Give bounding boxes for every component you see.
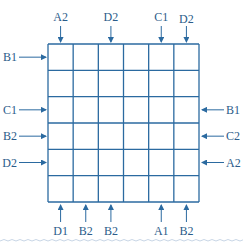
bottom-label: A1	[154, 224, 169, 238]
bottom-label: D1	[53, 224, 68, 238]
right-label: A2	[226, 156, 241, 170]
bottom-label: B2	[79, 224, 93, 238]
top-label: A2	[53, 10, 68, 24]
left-label: D2	[2, 156, 17, 170]
bottom-label: B2	[104, 224, 118, 238]
right-label: B1	[226, 103, 240, 117]
left-label: B1	[3, 50, 17, 64]
grid-canvas: A2D2C1D2D1B2B2A1B2B1C1B2D2B1C2A2	[0, 0, 243, 244]
bottom-label: B2	[179, 224, 193, 238]
left-label: B2	[3, 129, 17, 143]
right-label: C2	[226, 129, 240, 143]
top-label: D2	[104, 10, 119, 24]
wavy-edge	[0, 240, 243, 242]
left-label: C1	[3, 103, 17, 117]
top-label: C1	[154, 10, 168, 24]
grid-diagram: A2D2C1D2D1B2B2A1B2B1C1B2D2B1C2A2	[0, 0, 243, 244]
top-label: D2	[179, 12, 194, 26]
